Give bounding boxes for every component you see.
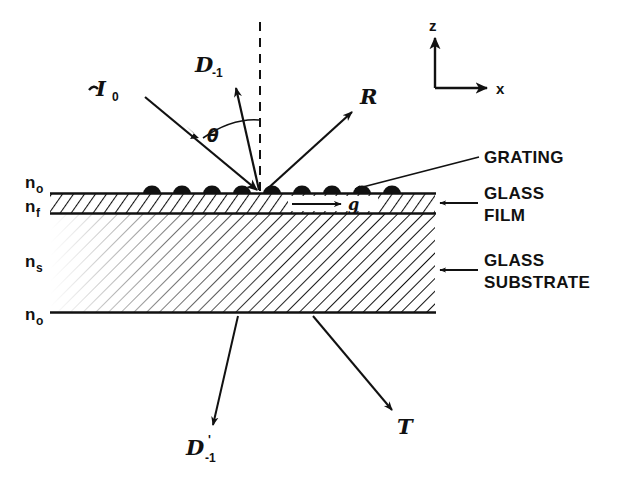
diffracted-down-label: D ' -1: [185, 433, 216, 465]
index-label-substrate: n s: [25, 252, 43, 275]
guided-wave-label: g: [348, 195, 359, 214]
glass-film-label-line2: FILM: [484, 206, 525, 225]
svg-text:o: o: [36, 182, 43, 196]
svg-text:-1: -1: [212, 66, 223, 80]
coordinate-axes: z x: [429, 17, 505, 97]
glass-film-label-line1: GLASS: [484, 184, 545, 203]
diffracted-down-ray: [213, 316, 238, 425]
incident-beam-label: I 0: [89, 76, 119, 104]
svg-text:s: s: [36, 261, 43, 275]
diffracted-up-group: D -1: [194, 52, 259, 190]
z-axis-label: z: [429, 17, 437, 34]
glass-substrate-layer: [50, 213, 435, 313]
grating-label: GRATING: [484, 148, 564, 167]
index-label-film: n f: [25, 197, 41, 220]
svg-text:D: D: [185, 435, 205, 460]
svg-text:-1: -1: [205, 451, 216, 465]
x-axis-label: x: [496, 80, 505, 97]
svg-text:n: n: [25, 252, 35, 271]
svg-text:n: n: [25, 173, 35, 192]
callout-glass-film: GLASS FILM: [440, 184, 545, 225]
callout-grating: GRATING: [355, 148, 564, 189]
reflected-beam-group: R: [265, 84, 377, 191]
incidence-angle-group: θ: [203, 120, 259, 146]
reflected-beam-label: R: [359, 84, 377, 109]
layer-stack: [50, 194, 436, 314]
svg-text:D: D: [194, 52, 214, 77]
svg-text:o: o: [36, 314, 43, 328]
svg-text:f: f: [36, 206, 41, 220]
index-label-ambient-below: n o: [25, 305, 43, 328]
glass-substrate-label-line1: GLASS: [484, 251, 545, 270]
figure-root: n o n f n s n o I 0: [0, 0, 626, 488]
diffracted-down-group: D ' -1: [185, 316, 238, 465]
callout-glass-substrate: GLASS SUBSTRATE: [440, 251, 590, 292]
incident-beam-group: I 0: [89, 76, 257, 190]
glass-substrate-label-line2: SUBSTRATE: [484, 273, 590, 292]
index-label-ambient-above: n o: [25, 173, 43, 196]
reflected-beam-ray: [265, 112, 352, 191]
grating-leader-line: [355, 157, 479, 189]
transmitted-beam-group: T: [313, 316, 414, 439]
diffracted-up-label: D -1: [194, 52, 223, 80]
theta-symbol: θ: [207, 126, 219, 146]
transmitted-beam-ray: [313, 316, 392, 410]
refractive-index-labels: n o n f n s n o: [25, 173, 43, 328]
optical-grating-coupler-diagram: n o n f n s n o I 0: [0, 0, 626, 488]
transmitted-beam-label: T: [397, 414, 414, 439]
svg-text:': ': [208, 433, 211, 447]
svg-text:n: n: [25, 197, 35, 216]
svg-text:0: 0: [112, 90, 119, 104]
svg-text:n: n: [25, 305, 35, 324]
